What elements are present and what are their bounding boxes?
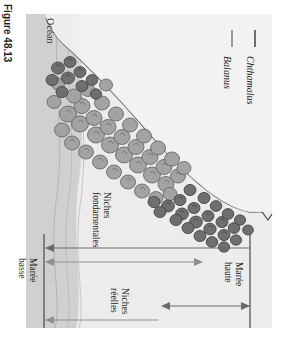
figure-panel: Océan Niches fondamentales Niches réelle… [18, 6, 280, 336]
figure-root: Figure 48.13 [0, 0, 290, 344]
low-tide-label-line2: basse [18, 258, 27, 279]
niches-fondamentales-line2: fondamentales [91, 192, 101, 247]
legend-swatch-chthamalus [254, 30, 256, 47]
high-tide-label-line2: haute [223, 262, 233, 283]
figure-caption-clip: Figure 48.13 [0, 0, 13, 120]
niches-reelles-line2: réelles [109, 288, 119, 313]
niches-fondamentales-line1: Niches [102, 192, 112, 218]
shore-profile-illustration [18, 6, 280, 336]
ocean-label: Océan [45, 18, 56, 44]
low-tide-label-line1: Marée [28, 258, 38, 282]
niches-reelles-line1: Niches [120, 288, 130, 314]
high-tide-label-line1: Marée [234, 262, 244, 286]
figure-caption: Figure 48.13 [2, 4, 13, 62]
legend-label-chthamalus: Chthamalus [245, 56, 256, 104]
legend-swatch-balanus [231, 30, 233, 47]
legend-label-balanus: Balanus [222, 56, 233, 89]
